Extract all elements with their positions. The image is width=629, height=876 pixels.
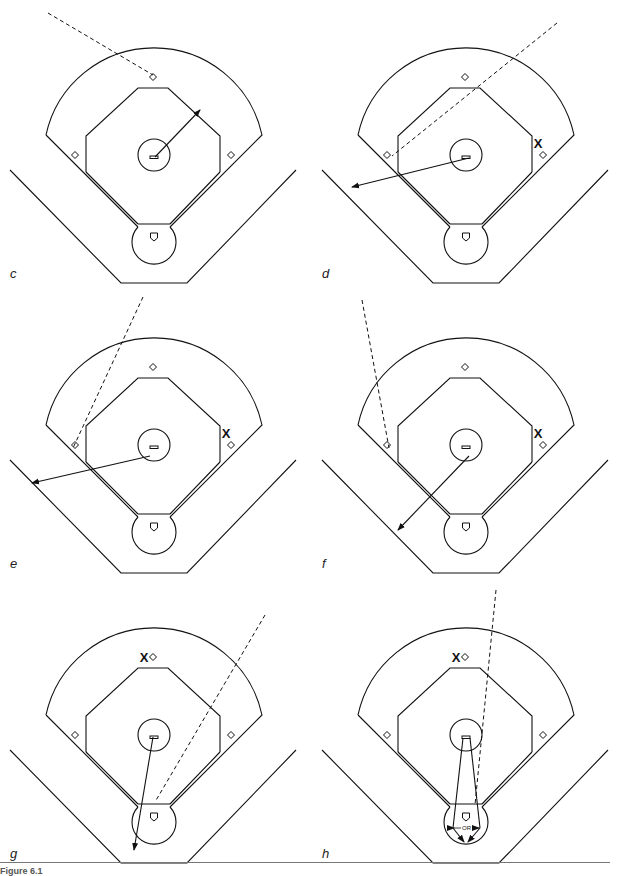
throw-path-right [470,738,480,828]
throw-arrow [134,737,153,850]
pitchers-mound [450,139,482,171]
stands-wall [10,750,296,863]
home-plate-icon [151,813,158,821]
x-marker-icon: X [452,650,461,665]
baselines [86,462,220,514]
home-plate-icon [151,523,158,531]
pitchers-rubber-icon [462,446,470,449]
first-base-icon [228,732,235,739]
second-base-icon [462,364,469,371]
home-plate-icon [151,233,158,241]
throw-path-left [453,738,463,828]
field-svg: XOR [312,580,622,870]
throw-arrow [32,456,150,483]
x-marker-icon: X [140,650,149,665]
third-base-icon [72,442,79,449]
first-base-icon [540,442,547,449]
pitchers-mound [138,719,170,751]
pitchers-mound [138,429,170,461]
home-plate-icon [463,233,470,241]
third-base-icon [384,442,391,449]
pitchers-rubber-icon [150,446,158,449]
third-base-icon [384,732,391,739]
throw-arrow [352,158,469,187]
figure-caption: Figure 6.1 [0,866,43,876]
third-base-icon [384,152,391,159]
pitchers-mound [450,429,482,461]
baselines [398,752,532,804]
stands-wall [322,460,608,573]
ball-path-dashed-line [362,300,389,448]
panel-label: e [10,556,17,571]
stands-wall [10,460,296,573]
first-base-icon [540,732,547,739]
first-base-icon [228,152,235,159]
second-base-icon [462,74,469,81]
panel-label: h [322,846,329,861]
second-base-icon [150,364,157,371]
baselines [86,172,220,224]
baselines [398,172,532,224]
pitchers-mound [138,139,170,171]
panel-label: c [10,266,17,281]
third-base-icon [72,732,79,739]
first-base-icon [228,442,235,449]
panel-label: f [322,556,326,571]
diagram-panel-c: c [0,0,310,290]
x-marker-icon: X [534,426,543,441]
x-marker-icon: X [534,136,543,151]
baselines [398,462,532,514]
second-base-icon [462,654,469,661]
pitchers-rubber-icon [150,156,158,159]
panel-label: d [322,266,329,281]
field-svg: X [0,290,310,580]
field-svg: X [312,290,622,580]
panel-label: g [10,846,17,861]
third-base-icon [72,152,79,159]
or-label: OR [462,825,472,831]
throw-arrow [155,110,200,157]
field-svg [0,0,310,290]
pitchers-mound [450,719,482,751]
diagram-panel-e: Xe [0,290,310,580]
stands-wall [10,170,296,283]
baselines [86,752,220,804]
pitchers-rubber-icon [150,736,158,739]
ball-path-dashed-line [48,13,153,75]
field-svg: X [312,0,622,290]
ball-path-dashed-line [475,590,496,805]
ball-path-dashed-line [73,297,143,448]
stands-wall [322,170,608,283]
x-marker-icon: X [222,426,231,441]
home-plate-icon [463,813,470,821]
diagram-panel-f: Xf [312,290,622,580]
first-base-icon [540,152,547,159]
caption-rule [0,862,610,863]
second-base-icon [150,654,157,661]
throw-arrow [398,456,469,530]
diagram-panel-g: Xg [0,580,310,870]
diagram-panel-h: XORh [312,580,622,870]
field-svg: X [0,580,310,870]
diagram-panel-d: Xd [312,0,622,290]
stands-wall [322,750,608,863]
home-plate-icon [463,523,470,531]
